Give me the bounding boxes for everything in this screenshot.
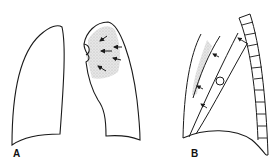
arrow-icon (213, 54, 219, 57)
panel-label-a: A (13, 148, 20, 159)
panel-b (183, 14, 268, 155)
diagram-canvas (0, 0, 274, 167)
panel-a (12, 22, 140, 145)
opacity-shading (86, 26, 120, 78)
hilum-marker (216, 77, 224, 85)
right-lung-outline (12, 26, 64, 145)
panel-label-b: B (191, 148, 198, 159)
